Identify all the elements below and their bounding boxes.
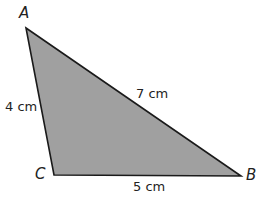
vertex-label-c: C: [35, 167, 45, 182]
vertex-label-a: A: [19, 6, 29, 21]
triangle-abc: [26, 28, 241, 176]
vertex-label-b: B: [246, 168, 256, 183]
side-label-cb: 5 cm: [133, 180, 165, 193]
side-label-ab: 7 cm: [136, 87, 168, 100]
side-label-ac: 4 cm: [5, 100, 37, 113]
